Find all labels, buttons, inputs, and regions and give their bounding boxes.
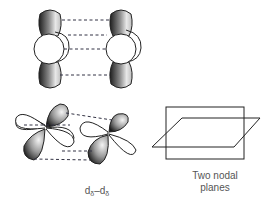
d-delta-orbital-left	[16, 104, 74, 160]
dz2-orbital-right	[106, 10, 141, 88]
overlap-dashes-top	[60, 20, 110, 75]
d-delta-orbital-right	[80, 114, 136, 164]
nodal-planes	[152, 107, 260, 159]
vertical-plane	[166, 107, 244, 159]
dz2-orbital-left	[34, 10, 69, 88]
d-delta-d-delta-label: dδ–dδ	[72, 185, 122, 200]
caption-line-2: planes	[180, 182, 250, 194]
two-nodal-planes-caption: Two nodal planes	[180, 170, 250, 194]
caption-line-1: Two nodal	[180, 170, 250, 182]
